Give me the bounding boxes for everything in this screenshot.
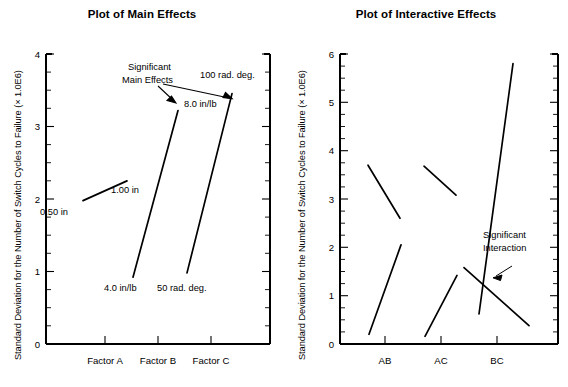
annotation-significant-interaction-line2: Interaction <box>483 243 526 253</box>
panel-main-effects: Plot of Main Effects Standard Deviation … <box>0 0 284 387</box>
x-ticks-right-panel <box>385 336 497 344</box>
x-category-label: Factor B <box>140 355 176 366</box>
y-tick-label: 5 <box>329 97 334 108</box>
y-tick-label: 4 <box>35 49 41 60</box>
annotation-significant-main-effects-line1: Significant <box>128 62 171 72</box>
x-category-label: AB <box>379 355 392 366</box>
figure-root: Plot of Main Effects Standard Deviation … <box>0 0 568 387</box>
y-tick-label: 6 <box>329 49 334 60</box>
x-category-label: BC <box>490 355 503 366</box>
annotation-arrow-interaction <box>493 266 512 281</box>
series-line-ab-upper <box>368 165 400 218</box>
plot-area-interactive-effects: 6 5 4 3 2 1 0 AB AC BC Significant Inter… <box>284 0 568 387</box>
y-tick-label: 1 <box>35 266 40 277</box>
y-major-ticks-right <box>550 54 558 344</box>
series-line-ac-upper <box>424 166 456 195</box>
y-tick-label: 0 <box>329 339 334 350</box>
series-line-ac-lower <box>425 275 457 336</box>
y-tick-label: 2 <box>35 194 40 205</box>
y-major-ticks-left <box>340 54 348 344</box>
y-major-ticks-right <box>262 54 270 344</box>
x-category-label: Factor A <box>87 355 123 366</box>
y-tick-label: 3 <box>329 194 334 205</box>
panel-interactive-effects: Plot of Interactive Effects Standard Dev… <box>284 0 568 387</box>
y-tick-label: 0 <box>35 339 40 350</box>
annotation-significant-interaction-line1: Significant <box>483 230 526 240</box>
x-category-label: AC <box>434 355 447 366</box>
x-category-label: Factor C <box>193 355 230 366</box>
y-tick-label: 1 <box>329 290 334 301</box>
annotation-arrow-to-factor-c <box>163 84 229 98</box>
series-line-factor-b <box>133 111 178 278</box>
x-ticks-left-panel <box>105 336 211 344</box>
series-line-factor-c <box>187 94 232 273</box>
annotation-significant-main-effects-line2: Main Effects <box>122 75 173 85</box>
series-line-ab-lower <box>369 245 401 334</box>
series-label-factor-b-low: 4.0 in/lb <box>104 283 137 293</box>
series-label-factor-c-low: 50 rad. deg. <box>157 283 207 293</box>
y-tick-label: 4 <box>329 145 335 156</box>
series-label-factor-a-low: 0.50 in <box>40 207 68 217</box>
series-label-factor-c-high: 100 rad. deg. <box>200 70 255 80</box>
plot-area-main-effects: 4 3 2 1 0 Factor A Factor B Factor C 0.5… <box>0 0 284 387</box>
y-tick-label: 3 <box>35 121 40 132</box>
y-major-ticks-left <box>46 54 54 344</box>
y-tick-label: 2 <box>329 242 334 253</box>
series-label-factor-b-high: 8.0 in/lb <box>184 99 217 109</box>
series-label-factor-a-high: 1.00 in <box>111 185 139 195</box>
